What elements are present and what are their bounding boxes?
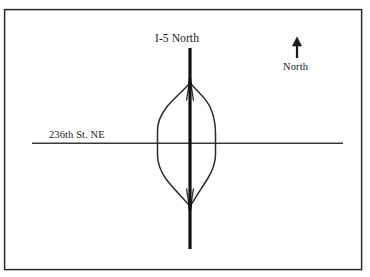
street-label: 236th St. NE bbox=[49, 130, 105, 141]
interchange-ramp-left bbox=[157, 84, 189, 205]
north-arrow-icon bbox=[292, 37, 301, 58]
road-map-figure: I-5 North 236th St. NE North bbox=[0, 0, 370, 277]
interchange-ramp-right bbox=[191, 84, 216, 205]
north-arrow-label: North bbox=[283, 62, 308, 73]
freeway-label: I-5 North bbox=[155, 33, 199, 45]
